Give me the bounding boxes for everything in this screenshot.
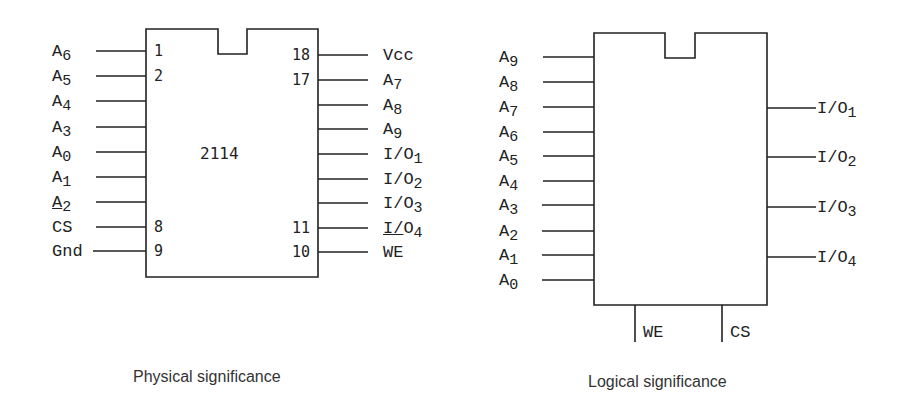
logical-chip-body — [594, 33, 767, 305]
pin-label-io1: I/O1 — [383, 146, 423, 164]
ic-pinout-diagram: A6 A5 A4 A3 A0 A1 A2 CS Gnd 1 2 8 9 2114… — [0, 0, 923, 404]
pin-label-a2: A2 — [52, 194, 71, 212]
pin-label-a4: A4 — [52, 93, 71, 111]
pin-label-cs: CS — [52, 219, 72, 236]
pin-label-we: WE — [383, 244, 403, 261]
logic-label-io4: I/O4 — [817, 249, 857, 267]
pin-label-a3: A3 — [52, 119, 71, 137]
pin-label-io2: I/O2 — [383, 171, 423, 189]
pin-number-8: 8 — [154, 220, 163, 235]
pin-number-2: 2 — [154, 69, 163, 84]
logic-label-a4: A4 — [499, 173, 518, 191]
pin-number-10: 10 — [280, 245, 310, 260]
pin-label-a5: A5 — [52, 68, 71, 86]
logic-label-a9: A9 — [499, 49, 518, 67]
pin-number-1: 1 — [154, 44, 163, 59]
logic-label-a8: A8 — [499, 74, 518, 92]
pin-label-a7: A7 — [383, 72, 402, 90]
pin-label-a6: A6 — [52, 43, 71, 61]
logic-label-io2: I/O2 — [817, 149, 857, 167]
logic-label-a2: A2 — [499, 223, 518, 241]
pin-label-a0: A0 — [52, 144, 71, 162]
caption-physical: Physical significance — [133, 368, 281, 386]
pin-label-vcc: Vcc — [383, 47, 414, 64]
pin-label-io3: I/O3 — [383, 195, 423, 213]
logic-label-io1: I/O1 — [817, 100, 857, 118]
logic-label-we: WE — [643, 324, 663, 341]
pin-label-a1: A1 — [52, 169, 71, 187]
pin-number-17: 17 — [280, 73, 310, 88]
pin-number-11: 11 — [280, 221, 310, 236]
logic-label-a0: A0 — [499, 272, 518, 290]
logic-label-a7: A7 — [499, 99, 518, 117]
logic-label-io3: I/O3 — [817, 199, 857, 217]
pin-label-a9: A9 — [383, 121, 402, 139]
logic-label-a3: A3 — [499, 197, 518, 215]
pin-label-a8: A8 — [383, 97, 402, 115]
caption-logical: Logical significance — [588, 373, 727, 391]
pin-label-io4: I/O4 — [383, 220, 423, 238]
pin-number-9: 9 — [154, 244, 163, 259]
chip-part-number: 2114 — [200, 144, 239, 163]
logic-label-cs: CS — [730, 324, 750, 341]
logic-label-a1: A1 — [499, 247, 518, 265]
chip-outlines — [0, 0, 923, 404]
logic-label-a5: A5 — [499, 148, 518, 166]
pin-label-gnd: Gnd — [52, 243, 83, 260]
pin-number-18: 18 — [280, 48, 310, 63]
logic-label-a6: A6 — [499, 124, 518, 142]
